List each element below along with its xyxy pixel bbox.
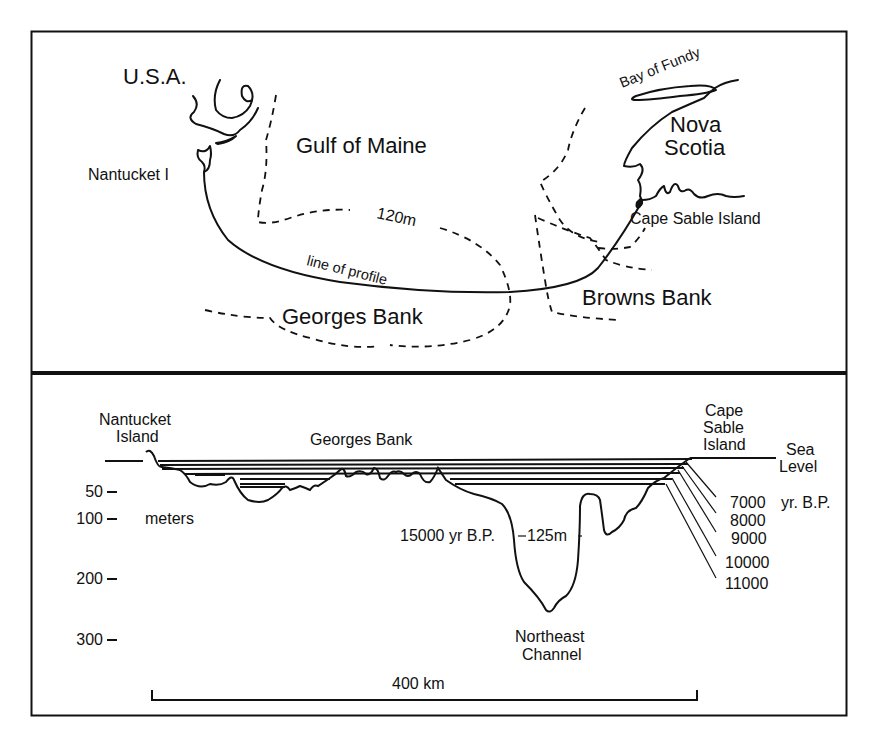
scale-bar-label: 400 km [392, 675, 444, 692]
usa-coastline [190, 80, 258, 135]
shoreline-10000 [185, 473, 680, 474]
age-leader-11000 [666, 484, 716, 578]
south-shore-coastline [642, 184, 744, 200]
depth-axis: 50 100 200 300 meters [76, 483, 194, 648]
age-label-7000: 7000 [730, 494, 766, 511]
age-label-9000: 9000 [731, 530, 767, 547]
label-georges-bank-profile: Georges Bank [310, 431, 413, 448]
depth-tick-label: 300 [76, 631, 103, 648]
label-nantucket-line2: Island [116, 428, 159, 445]
label-nova: Nova [670, 112, 722, 137]
label-georges-bank-map: Georges Bank [282, 304, 424, 329]
depth-axis-unit: meters [145, 510, 194, 527]
label-cape-sable-island: Cape Sable Island [630, 210, 761, 227]
figure: U.S.A. Nantucket I Gulf of Maine Bay of … [0, 0, 877, 747]
label-scotia: Scotia [664, 135, 726, 160]
contour-gulf-west [258, 95, 350, 223]
depth-tick-label: 100 [76, 510, 103, 527]
map-panel: U.S.A. Nantucket I Gulf of Maine Bay of … [88, 44, 761, 347]
label-sea-level-line1: Sea [786, 441, 815, 458]
label-120m-contour: 120m [375, 204, 418, 229]
cape-cod-tip [216, 136, 236, 144]
shoreline-9000 [162, 468, 684, 469]
label-browns-bank: Browns Bank [582, 285, 713, 310]
label-125m: 125m [527, 527, 567, 544]
label-nantucket: Nantucket I [88, 166, 169, 183]
nantucket-island-shape [198, 146, 212, 172]
label-bay-of-fundy: Bay of Fundy [617, 44, 703, 91]
depth-tick-label: 50 [85, 483, 103, 500]
label-cape-line3: Island [703, 436, 746, 453]
shoreline-8000 [160, 464, 688, 465]
contour-middle-1 [540, 108, 600, 242]
age-label-8000: 8000 [730, 512, 766, 529]
label-cape-line2: Sable [703, 419, 744, 436]
label-northeast-line1: Northeast [515, 628, 585, 645]
label-nantucket-line1: Nantucket [99, 411, 172, 428]
depth-tick-label: 200 [76, 570, 103, 587]
shoreline-7000 [158, 459, 692, 461]
cape-sable-island-shape [636, 198, 644, 208]
label-gulf-of-maine: Gulf of Maine [296, 133, 427, 158]
label-northeast-line2: Channel [522, 646, 582, 663]
contour-middle-4 [598, 228, 645, 249]
label-sea-level-line2: Level [779, 458, 817, 475]
age-label-11000: 11000 [725, 575, 768, 592]
profile-panel: 50 100 200 300 meters Nantucket Island G… [76, 402, 830, 700]
label-15000-bp: 15000 yr B.P. [400, 527, 495, 544]
age-label-10000: 10000 [725, 554, 770, 571]
label-yr-bp: yr. B.P. [781, 494, 831, 511]
label-cape-line1: Cape [705, 402, 743, 419]
label-usa: U.S.A. [123, 64, 187, 89]
